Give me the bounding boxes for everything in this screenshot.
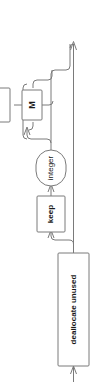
inner-spine-line	[51, 44, 70, 143]
m-box-top-connector	[33, 70, 52, 88]
keep-node-box	[37, 196, 65, 232]
dealloc-node-box	[58, 253, 89, 366]
diagram-canvas: M integer keep deallocate unused	[0, 0, 95, 389]
integer-node-oval	[36, 150, 66, 186]
clipped-left-box	[0, 88, 10, 122]
integer-to-loop-line	[27, 129, 51, 150]
diagram-lines	[0, 0, 95, 389]
bypass-left-corner	[23, 84, 27, 88]
m-node-box	[22, 90, 42, 120]
dealloc-to-keep-line	[51, 232, 74, 253]
m-box-bottom-connector	[29, 122, 33, 130]
